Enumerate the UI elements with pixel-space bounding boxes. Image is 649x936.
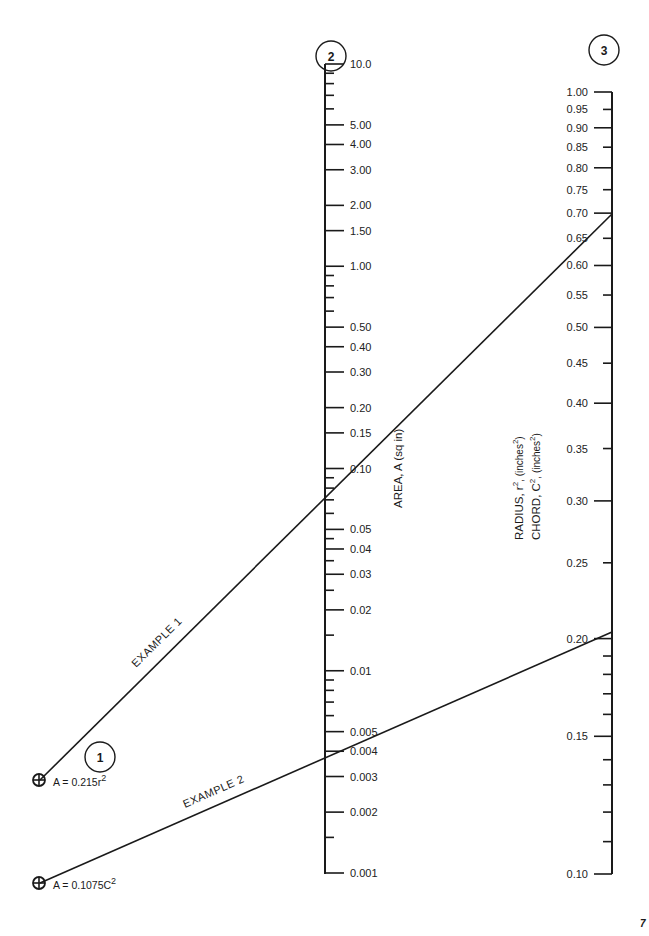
radius-chord-scale: 1.000.900.800.700.600.500.400.300.200.15… — [567, 86, 612, 880]
radius-tick-label: 0.35 — [567, 443, 588, 455]
radius-tick-label: 0.80 — [567, 162, 588, 174]
area-tick-label: 0.003 — [350, 771, 378, 783]
radius-tick-label: 0.20 — [567, 633, 588, 645]
radius-tick-label: 0.95 — [567, 103, 588, 115]
area-tick-label: 0.001 — [350, 867, 378, 879]
area-tick-label: 1.00 — [350, 260, 371, 272]
radius-tick-label: 0.55 — [567, 289, 588, 301]
scale-1-number: 1 — [97, 751, 104, 765]
radius-tick-label: 0.75 — [567, 184, 588, 196]
formula-chord: A = 0.1075C2 — [53, 876, 116, 891]
chord-axis-title: CHORD, C2, (inches2) — [528, 433, 542, 540]
area-tick-label: 0.15 — [350, 427, 371, 439]
area-tick-label: 0.04 — [350, 543, 371, 555]
area-scale: 10.05.004.003.002.001.501.000.500.400.30… — [325, 58, 378, 879]
area-tick-label: 4.00 — [350, 138, 371, 150]
scale-3-number: 3 — [601, 44, 608, 58]
pivot-point-radius: A = 0.215r2 — [33, 773, 106, 788]
radius-tick-label: 0.60 — [567, 259, 588, 271]
area-tick-label: 0.20 — [350, 402, 371, 414]
area-tick-label: 0.002 — [350, 806, 378, 818]
radius-tick-label: 0.40 — [567, 397, 588, 409]
scale-3-marker: 3 — [589, 35, 619, 65]
area-tick-label: 0.004 — [350, 745, 378, 757]
area-tick-label: 0.30 — [350, 366, 371, 378]
area-tick-label: 10.0 — [350, 58, 371, 70]
radius-tick-label: 0.25 — [567, 557, 588, 569]
area-tick-label: 0.40 — [350, 341, 371, 353]
area-tick-label: 0.10 — [350, 463, 371, 475]
example-1-label: EXAMPLE 1 — [129, 615, 184, 670]
radius-tick-label: 0.50 — [567, 321, 588, 333]
radius-tick-label: 0.70 — [567, 207, 588, 219]
nomograph: 2 3 1 10.05.004.003.002.001.501.000.500.… — [0, 0, 649, 936]
area-tick-label: 1.50 — [350, 225, 371, 237]
area-tick-label: 0.03 — [350, 568, 371, 580]
area-tick-label: 0.01 — [350, 665, 371, 677]
scale-2-marker: 2 — [316, 41, 346, 71]
area-tick-label: 0.05 — [350, 523, 371, 535]
area-tick-label: 5.00 — [350, 119, 371, 131]
area-tick-label: 0.50 — [350, 321, 371, 333]
radius-axis-title: RADIUS, r2, (inches2) — [511, 436, 525, 540]
radius-tick-label: 0.30 — [567, 495, 588, 507]
example-2-label: EXAMPLE 2 — [181, 772, 246, 809]
scale-1-marker: 1 — [85, 742, 115, 772]
area-tick-label: 3.00 — [350, 164, 371, 176]
radius-tick-label: 1.00 — [567, 86, 588, 98]
area-tick-label: 2.00 — [350, 199, 371, 211]
area-tick-label: 0.02 — [350, 604, 371, 616]
formula-radius: A = 0.215r2 — [53, 773, 106, 788]
radius-tick-label: 0.10 — [567, 868, 588, 880]
radius-tick-label: 0.45 — [567, 357, 588, 369]
radius-tick-label: 0.90 — [567, 122, 588, 134]
pivot-point-chord: A = 0.1075C2 — [33, 876, 116, 891]
radius-tick-label: 0.15 — [567, 730, 588, 742]
radius-tick-label: 0.65 — [567, 232, 588, 244]
page-number: 7 — [640, 918, 646, 929]
radius-tick-label: 0.85 — [567, 141, 588, 153]
scale-2-number: 2 — [328, 50, 335, 64]
area-axis-title: AREA, A (sq in) — [392, 429, 404, 508]
